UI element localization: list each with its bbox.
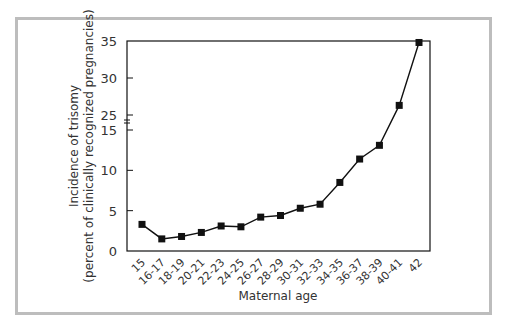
plot-area: [127, 41, 430, 251]
data-point-marker: [277, 212, 284, 219]
data-point-marker: [317, 201, 324, 208]
y-axis-title-line2: (percent of clinically recognized pregna…: [82, 9, 96, 282]
y-tick-label: 30: [100, 71, 117, 86]
y-tick-label: 35: [100, 34, 117, 49]
y-axis-title-line1: Incidence of trisomy: [67, 85, 81, 207]
x-axis-title: Maternal age: [239, 289, 318, 303]
x-tick-label: 42: [406, 256, 425, 275]
plot-border: [127, 41, 430, 251]
y-tick-label: 5: [109, 204, 117, 219]
y-tick-label: 25: [100, 108, 117, 123]
line-chart: 051015253035 1516-1718-1920-2122-2324-25…: [0, 0, 506, 330]
data-point-marker: [257, 214, 264, 221]
data-point-marker: [376, 142, 383, 149]
y-axis: 051015253035: [100, 34, 133, 259]
y-tick-label: 0: [109, 244, 117, 259]
data-point-marker: [237, 223, 244, 230]
data-point-marker: [218, 222, 225, 229]
data-point-marker: [396, 102, 403, 109]
data-point-marker: [356, 156, 363, 163]
y-tick-label: 15: [100, 123, 117, 138]
x-axis: 1516-1718-1920-2122-2324-2526-2728-2930-…: [129, 256, 425, 288]
series-line: [142, 42, 419, 238]
data-point-marker: [416, 39, 423, 46]
data-point-marker: [139, 221, 146, 228]
data-point-marker: [336, 179, 343, 186]
data-point-marker: [158, 235, 165, 242]
data-point-marker: [178, 233, 185, 240]
data-series: [139, 39, 423, 242]
data-point-marker: [198, 229, 205, 236]
y-tick-label: 10: [100, 163, 117, 178]
data-point-marker: [297, 205, 304, 212]
